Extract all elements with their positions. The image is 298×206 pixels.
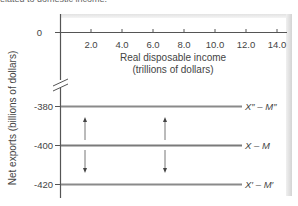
- y-tick-label: -400: [34, 140, 53, 151]
- x-tick-label: 6.0: [146, 39, 159, 50]
- x-tick-label: 14.0: [268, 39, 287, 50]
- x-tick-label: 12.0: [237, 39, 256, 50]
- x-axis-title-line1: Real disposable income: [120, 52, 227, 63]
- y-tick-label: -380: [34, 101, 53, 112]
- x-tick-label: 4.0: [115, 39, 128, 50]
- x-tick-label: 2.0: [84, 39, 97, 50]
- x-axis-title-line2: (trillions of dollars): [132, 64, 213, 75]
- x-tick-label: 8.0: [177, 39, 190, 50]
- y-tick-label: 0: [37, 27, 42, 38]
- x-tick-label: 10.0: [206, 39, 225, 50]
- y-tick-label: -420: [34, 179, 53, 190]
- y-axis-title: Net exports (billions of dollars): [7, 51, 18, 186]
- label-x1-m1: X′ – M′: [244, 179, 275, 190]
- x-tick-labels: 2.0 4.0 6.0 8.0 10.0 12.0 14.0: [84, 39, 286, 50]
- net-exports-chart: 2.0 4.0 6.0 8.0 10.0 12.0 14.0 Real disp…: [0, 0, 298, 206]
- label-x-m: X – M: [244, 140, 270, 151]
- label-x2-m2: X″ – M″: [244, 101, 277, 112]
